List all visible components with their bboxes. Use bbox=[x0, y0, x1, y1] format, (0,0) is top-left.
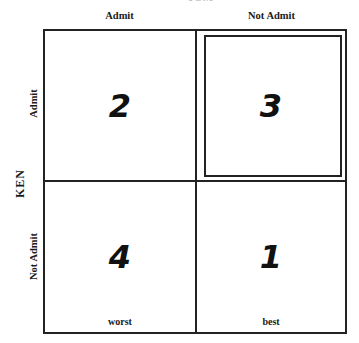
cell-not-admit-not-admit: 1 bbox=[197, 182, 345, 332]
column-label-admit: Admit bbox=[43, 10, 196, 21]
top-axis-title: TOM bbox=[150, 0, 250, 3]
best-label: best bbox=[197, 316, 345, 327]
cell-admit-not-admit: 3 bbox=[197, 31, 345, 180]
column-label-not-admit: Not Admit bbox=[196, 10, 347, 21]
rank-value: 2 bbox=[109, 87, 131, 125]
cell-admit-admit: 2 bbox=[45, 31, 195, 180]
row-label-not-admit: Not Admit bbox=[28, 217, 39, 297]
row-label-admit: Admit bbox=[28, 64, 39, 144]
rank-value: 3 bbox=[260, 87, 282, 125]
cell-not-admit-admit: 4 bbox=[45, 182, 195, 332]
row-axis-label: KEN bbox=[13, 159, 28, 209]
rank-value: 1 bbox=[260, 238, 282, 276]
worst-label: worst bbox=[45, 316, 195, 327]
rank-value: 4 bbox=[109, 238, 131, 276]
